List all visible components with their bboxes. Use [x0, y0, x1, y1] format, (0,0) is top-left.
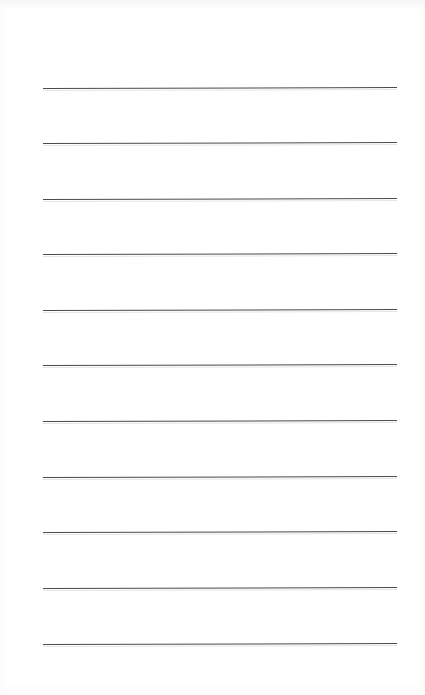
notepad-page: [0, 0, 425, 695]
ruled-lines-area: [0, 0, 425, 695]
bottom-margin-area: [0, 644, 425, 695]
writing-line-7[interactable]: [43, 365, 397, 421]
writing-line-6[interactable]: [43, 310, 397, 365]
writing-line-9[interactable]: [43, 477, 397, 532]
writing-line-3[interactable]: [43, 143, 397, 199]
writing-line-10[interactable]: [43, 532, 397, 588]
writing-line-5[interactable]: [43, 254, 397, 310]
writing-line-4[interactable]: [43, 199, 397, 254]
writing-line-1[interactable]: [43, 32, 397, 88]
writing-line-2[interactable]: [43, 88, 397, 143]
writing-line-8[interactable]: [43, 421, 397, 477]
writing-line-11[interactable]: [43, 588, 397, 644]
